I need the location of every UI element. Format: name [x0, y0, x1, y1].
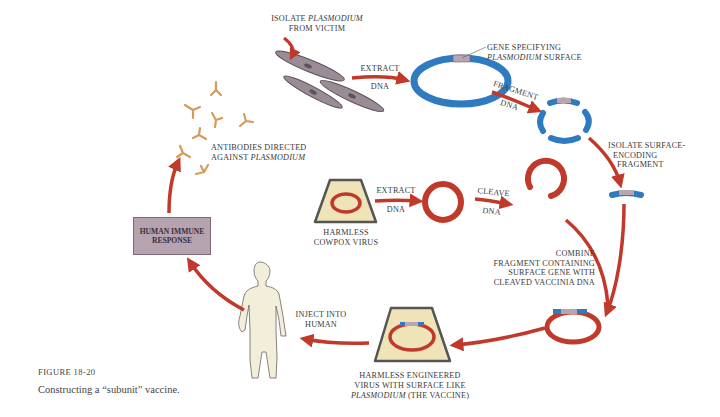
label-text: DNA	[387, 205, 405, 214]
label-text: FRAGMENT CONTAINING	[494, 259, 595, 268]
label-text: ISOLATE SURFACE-	[608, 141, 685, 150]
label-cowpox: HARMLESS COWPOX VIRUS	[310, 228, 382, 248]
label-text: ANTIBODIES DIRECTED	[211, 143, 306, 152]
label-text: HARMLESS	[323, 228, 368, 237]
recombinant-dna-icon	[547, 309, 599, 342]
label-isolate-surface: ISOLATE SURFACE- ENCODING FRAGMENT	[608, 141, 685, 170]
dna-fragments-icon	[540, 98, 589, 141]
label-text: INJECT INTO	[296, 310, 347, 319]
label-text: AGAINST	[211, 153, 250, 162]
label-text-italic: PLASMODIUM	[487, 53, 542, 62]
arrow-cleave	[475, 199, 508, 204]
arrow-combine-right	[607, 204, 624, 312]
label-text: (THE VACCINE)	[406, 391, 469, 400]
human-figure-icon	[239, 262, 286, 378]
human-immune-response-box: HUMAN IMMUNE RESPONSE	[133, 217, 211, 255]
label-extract-dna-2: EXTRACT	[374, 186, 418, 196]
label-text: FRAGMENT	[608, 160, 664, 169]
label-text-italic: PLASMODIUM	[250, 153, 305, 162]
label-text: DNA	[482, 206, 501, 217]
cowpox-virus-icon	[315, 180, 376, 222]
label-extract-dna-1: EXTRACT	[358, 64, 402, 74]
label-extract-dna-2-bottom: DNA	[374, 205, 418, 215]
label-text: FROM VICTIM	[289, 24, 345, 33]
label-text: ENCODING	[608, 151, 657, 160]
subunit-vaccine-diagram	[0, 0, 720, 417]
label-text: EXTRACT	[360, 64, 399, 73]
label-inject-human: INJECT INTO HUMAN	[293, 310, 349, 330]
arrow-antibodies	[169, 162, 178, 213]
label-text: SURFACE	[542, 53, 582, 62]
label-text: CLEAVED VACCINIA DNA	[494, 278, 595, 287]
label-text-italic: PLASMODIUM	[351, 391, 406, 400]
arrow-inject	[305, 339, 369, 343]
label-cleave-dna: DNA	[482, 206, 501, 218]
label-text-italic: PLASMODIUM	[308, 14, 363, 23]
label-extract-dna-1-bottom: DNA	[358, 82, 402, 92]
label-text: SURFACE GENE WITH	[508, 268, 595, 277]
figure-caption: Constructing a “subunit” vaccine.	[38, 384, 180, 395]
label-text: COWPOX VIRUS	[314, 238, 378, 247]
label-antibodies: ANTIBODIES DIRECTED AGAINST PLASMODIUM	[211, 143, 306, 163]
arrow-immune	[190, 262, 244, 310]
label-text: RESPONSE	[152, 236, 192, 245]
label-combine: COMBINE FRAGMENT CONTAINING SURFACE GENE…	[487, 249, 595, 287]
arrow-extract-1	[352, 77, 405, 80]
label-text: COMBINE	[556, 249, 595, 258]
arrow-to-vaccine	[455, 328, 545, 345]
arrow-extract-2	[375, 200, 418, 201]
label-text: HUMAN	[305, 320, 337, 329]
label-text: HARMLESS ENGINEERED	[359, 371, 460, 380]
label-text: GENE SPECIFYING	[487, 43, 561, 52]
label-text: EXTRACT	[376, 186, 415, 195]
label-text: HUMAN IMMUNE	[140, 227, 205, 236]
label-text: VIRUS WITH SURFACE LIKE	[354, 381, 465, 390]
engineered-virus-icon	[375, 308, 450, 361]
figure-number: FIGURE 18-20	[38, 367, 95, 377]
surface-gene-fragment-icon	[612, 190, 641, 195]
label-text: DNA	[371, 82, 389, 91]
label-engineered-vaccine: HARMLESS ENGINEERED VIRUS WITH SURFACE L…	[340, 371, 480, 401]
cleaved-dna-icon	[528, 161, 564, 196]
label-text: ISOLATE	[271, 14, 308, 23]
label-gene-specifying: GENE SPECIFYING PLASMODIUM SURFACE	[487, 43, 582, 63]
label-isolate-plasmodium: ISOLATE PLASMODIUM FROM VICTIM	[262, 14, 372, 34]
vaccinia-dna-icon	[425, 184, 461, 220]
